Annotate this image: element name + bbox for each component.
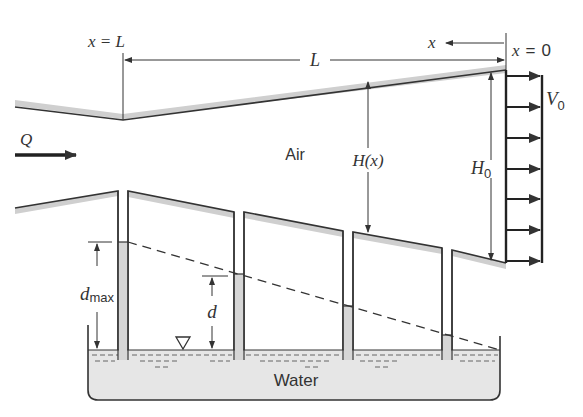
diagram-canvas: Water (0, 0, 583, 417)
air-label: Air (285, 146, 305, 163)
height-x-dimension: H(x) (351, 82, 383, 232)
flow-arrow: Q (15, 130, 76, 155)
velocity-profile: V0 (506, 70, 565, 263)
length-label: L (309, 50, 320, 70)
height-x-label: H(x) (351, 151, 383, 170)
flow-label: Q (20, 130, 32, 149)
x-axis-label: x (427, 33, 436, 52)
d-label: d (207, 301, 217, 322)
d-max-label: dmax (80, 283, 115, 305)
velocity-label: V0 (546, 88, 565, 113)
height-0-label: H0 (470, 158, 491, 181)
height-0-dimension: H0 (470, 73, 491, 260)
length-dimension: L (125, 50, 504, 70)
x-eq-0-label: x=0 (511, 41, 551, 60)
upper-wall (15, 65, 506, 120)
x-eq-L-label: x = L (87, 32, 125, 51)
water-label: Water (274, 371, 319, 390)
water-tank: Water (88, 300, 500, 400)
